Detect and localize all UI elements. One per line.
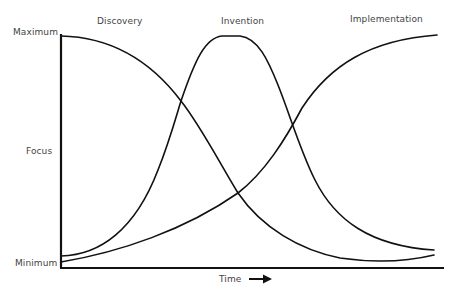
- invention-curve: [61, 36, 434, 256]
- discovery-curve: [61, 36, 434, 261]
- right-arrow-icon: [249, 275, 272, 284]
- focus-over-time-diagram: [0, 0, 455, 292]
- implementation-curve: [61, 35, 437, 262]
